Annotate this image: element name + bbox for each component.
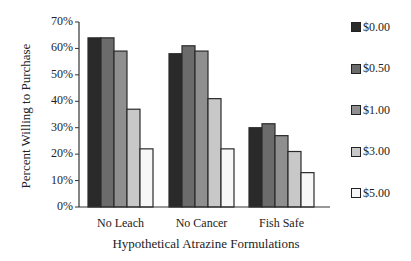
x-category-label: No Cancer [162, 216, 242, 231]
legend-label: $0.50 [363, 61, 390, 76]
y-tick-label: 40% [33, 93, 73, 108]
legend-swatch [351, 188, 361, 198]
bar [101, 38, 114, 207]
bar [127, 109, 140, 207]
y-tick-label: 60% [33, 40, 73, 55]
legend-label: $0.00 [363, 20, 390, 35]
legend-label: $3.00 [363, 144, 390, 159]
legend-swatch [351, 147, 361, 157]
y-tick-label: 70% [33, 14, 73, 29]
y-axis-title: Percent Willing to Purchase [18, 16, 34, 216]
y-tick-label: 30% [33, 120, 73, 135]
bar [275, 136, 288, 207]
legend-item: $0.00 [351, 20, 390, 34]
y-tick-label: 0% [33, 199, 73, 214]
x-axis-title: Hypothetical Atrazine Formulations [81, 236, 331, 252]
bar [208, 99, 221, 207]
bar-chart: 0%10%20%30%40%50%60%70% No LeachNo Cance… [0, 0, 411, 261]
bar [88, 38, 101, 207]
bar [221, 149, 234, 207]
bar [262, 124, 275, 207]
legend-item: $3.00 [351, 145, 390, 159]
bar [182, 46, 195, 207]
bar [114, 51, 127, 207]
legend-swatch [351, 105, 361, 115]
legend-item: $1.00 [351, 103, 390, 117]
y-tick-label: 20% [33, 146, 73, 161]
legend-label: $1.00 [363, 103, 390, 118]
x-category-label: No Leach [81, 216, 161, 231]
x-category-label: Fish Safe [242, 216, 322, 231]
bar [301, 173, 314, 207]
bar [195, 51, 208, 207]
legend-label: $5.00 [363, 186, 390, 201]
y-tick-label: 50% [33, 67, 73, 82]
legend-swatch [351, 64, 361, 74]
y-tick-label: 10% [33, 173, 73, 188]
bar [249, 128, 262, 207]
bar [288, 152, 301, 208]
bar [169, 54, 182, 207]
bar [140, 149, 153, 207]
legend-swatch [351, 22, 361, 32]
legend-item: $5.00 [351, 186, 390, 200]
legend-item: $0.50 [351, 62, 390, 76]
